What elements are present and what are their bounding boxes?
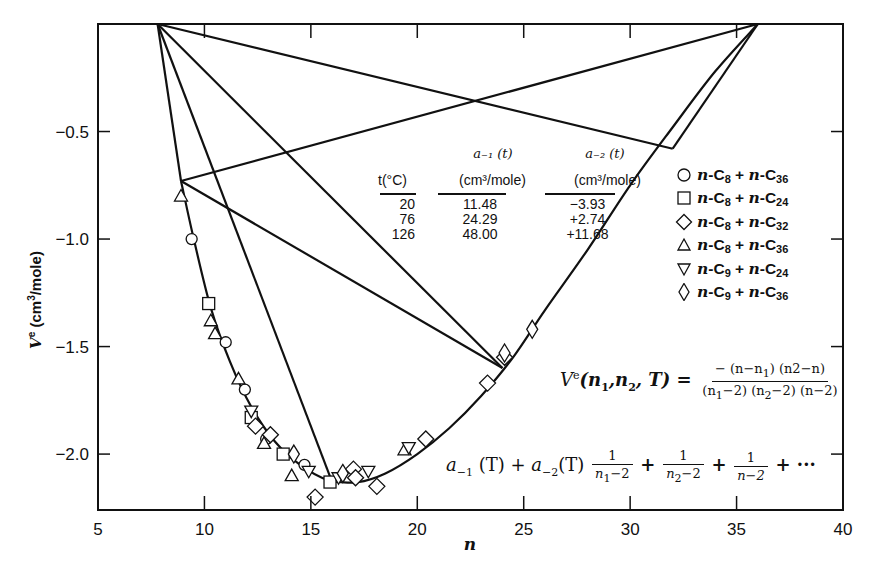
circle-marker-icon [675,166,693,184]
legend-item: n-C8 + n-C36 [675,163,788,187]
diamond-marker-icon [675,213,693,231]
legend-label: n-C8 + n-C36 [697,235,788,255]
legend-label: n-C8 + n-C32 [697,212,788,232]
table-header-a1: (cm³/mole) [435,172,550,188]
x-tick-label: 10 [195,520,214,539]
y-tick-label: −1.5 [55,338,89,357]
y-tick-label: −1.0 [55,230,89,249]
svg-text:Ve (cm3/mole): Ve (cm3/mole) [26,251,45,349]
triangle-up-marker-icon [175,190,188,202]
fit-curve [181,24,758,483]
y-tick-label: −0.5 [55,123,89,142]
legend-item: n-C9 + n-C36 [675,281,788,305]
table-col-a1: 11.4824.2948.00 [440,197,520,242]
diamond-marker-icon [369,478,385,494]
triangle-up-marker-icon [285,469,298,481]
legend: n-C8 + n-C36 n-C8 + n-C24 n-C8 + n-C32 n… [675,163,788,304]
legend-item: n-C8 + n-C32 [675,210,788,234]
y-axis-title: Ve (cm3/mole) [26,251,45,349]
table-header-a2-top: a₋₂ (t) [545,146,665,161]
equation-excess-volume: Ve(n1,n2, T) = − (n−n1) (n2−n) (n1−2) (n… [560,361,843,401]
construction-line [158,24,181,181]
table-col-t: 2076126 [365,197,415,242]
legend-item: n-C8 + n-C36 [675,234,788,258]
table-header-a2: (cm³/mole) [545,172,670,188]
x-tick-label: 15 [301,520,320,539]
tall-diamond-marker-icon [675,283,693,301]
inset-coefficient-table: a₋₁ (t) a₋₂ (t) t(°C) (cm³/mole) (cm³/mo… [360,143,660,253]
triangle-down-marker-icon [362,466,375,478]
circle-marker-icon [186,234,197,245]
x-tick-label: 25 [514,520,533,539]
x-tick-label: 40 [834,520,853,539]
legend-item: n-C8 + n-C24 [675,187,788,211]
y-tick-label: −2.0 [55,445,89,464]
legend-label: n-C9 + n-C36 [697,282,788,302]
triangle-down-marker-icon [302,466,315,478]
table-rule-a2 [545,193,615,195]
legend-label: n-C9 + n-C24 [697,259,788,279]
construction-line [158,24,673,149]
fit-curve-path [181,24,758,483]
diamond-marker-icon [307,489,323,505]
table-col-a2: −3.93+2.74+11.68 [545,197,630,242]
table-header-t: t(°C) [365,172,420,188]
triangle-up-marker-icon [232,372,245,384]
x-axis-title: n [464,534,476,554]
table-header-a1-top: a₋₁ (t) [438,146,548,161]
tall-diamond-marker-icon [288,445,299,463]
x-tick-label: 20 [408,520,427,539]
legend-item: n-C9 + n-C24 [675,257,788,281]
square-marker-icon [277,448,289,460]
table-rule-t [380,193,416,195]
triangle-up-marker-icon [675,236,693,254]
table-rule-a1 [438,193,506,195]
x-tick-label: 35 [727,520,746,539]
x-tick-label: 5 [93,520,102,539]
square-marker-icon [203,298,215,310]
circle-marker-icon [239,384,250,395]
triangle-down-marker-icon [675,260,693,278]
equation1-fraction: − (n−n1) (n2−n) (n1−2) (n2−2) (n−2) [699,361,840,401]
diamond-marker-icon [480,375,496,391]
legend-label: n-C8 + n-C36 [697,165,788,185]
x-tick-label: 30 [621,520,640,539]
legend-label: n-C8 + n-C24 [697,188,788,208]
equation-series-expansion: a−1 (T) + a−2(T) 1n1−2 + 1n2−2 + 1n−2 + … [446,448,816,485]
square-marker-icon [675,189,693,207]
